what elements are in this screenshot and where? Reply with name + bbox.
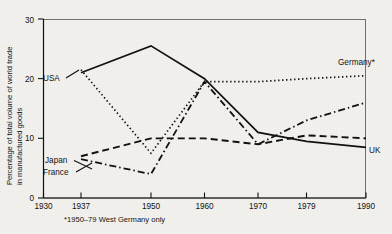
y-axis-title-line1: Percentage of total volume of world trad… — [5, 47, 14, 185]
line-chart-figure: 0 10 20 30 1930 1937 1950 1960 1970 1979… — [0, 0, 392, 234]
x-tick-label-1937: 1937 — [72, 202, 91, 211]
series-line-usa — [81, 46, 366, 147]
x-tick-label-1930: 1930 — [34, 202, 53, 211]
x-tick-marks — [44, 193, 367, 199]
x-tick-label-1990: 1990 — [357, 202, 376, 211]
series-label-uk: UK — [369, 146, 381, 155]
y-tick-label-10: 10 — [25, 134, 35, 143]
y-tick-label-30: 30 — [25, 16, 35, 25]
chart-svg: 0 10 20 30 1930 1937 1950 1960 1970 1979… — [0, 0, 392, 234]
series-line-france — [81, 82, 366, 174]
plot-frame — [44, 20, 366, 199]
y-tick-label-20: 20 — [25, 75, 35, 84]
series-label-usa: USA — [43, 74, 60, 83]
x-tick-label-1960: 1960 — [195, 202, 214, 211]
chart-footnote: *1950–79 West Germany only — [64, 215, 165, 224]
series-label-germany: Germany* — [338, 58, 376, 67]
x-tick-label-1970: 1970 — [249, 202, 268, 211]
series-label-france: France — [43, 168, 69, 177]
series-line-japan — [81, 135, 366, 156]
y-axis-title-line2: in manufactured goods — [15, 108, 24, 185]
x-tick-label-1950: 1950 — [142, 202, 161, 211]
x-tick-label-1979: 1979 — [297, 202, 316, 211]
leader-usa — [66, 70, 79, 78]
series-label-japan: Japan — [45, 156, 68, 165]
